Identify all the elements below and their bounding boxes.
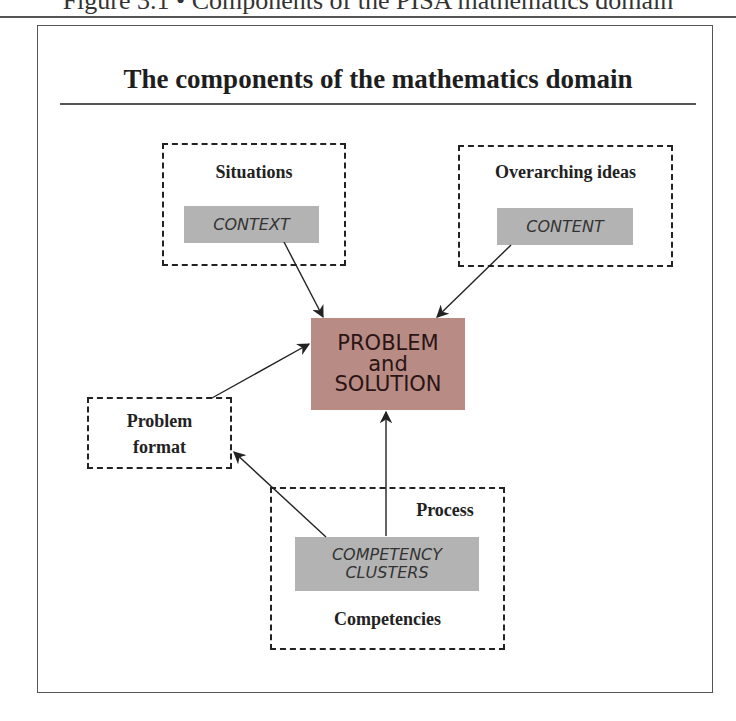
context-label: CONTEXT bbox=[213, 216, 289, 234]
solution-line: SOLUTION bbox=[334, 374, 441, 395]
problem-format-line2: format bbox=[87, 434, 232, 460]
problem-solution-box: PROBLEM and SOLUTION bbox=[311, 318, 465, 410]
caption-divider bbox=[0, 16, 736, 18]
content-label: CONTENT bbox=[526, 218, 603, 236]
title-underline bbox=[60, 103, 696, 105]
and-line: and bbox=[368, 354, 408, 375]
competencies-label: Competencies bbox=[270, 609, 505, 630]
problem-line: PROBLEM bbox=[337, 333, 438, 354]
diagram-title: The components of the mathematics domain bbox=[60, 64, 696, 95]
problem-format-line1: Problem bbox=[87, 408, 232, 434]
figure-caption: Figure 3.1 • Components of the PISA math… bbox=[0, 0, 736, 16]
situations-label: Situations bbox=[162, 162, 346, 183]
competency-line: COMPETENCY bbox=[332, 546, 442, 564]
clusters-line: CLUSTERS bbox=[345, 564, 428, 582]
competency-clusters-box: COMPETENCY CLUSTERS bbox=[295, 537, 479, 591]
context-box: CONTEXT bbox=[184, 206, 319, 243]
problem-format-label: Problem format bbox=[87, 408, 232, 460]
content-box: CONTENT bbox=[497, 208, 633, 245]
overarching-ideas-label: Overarching ideas bbox=[458, 162, 673, 183]
process-label: Process bbox=[395, 500, 495, 521]
